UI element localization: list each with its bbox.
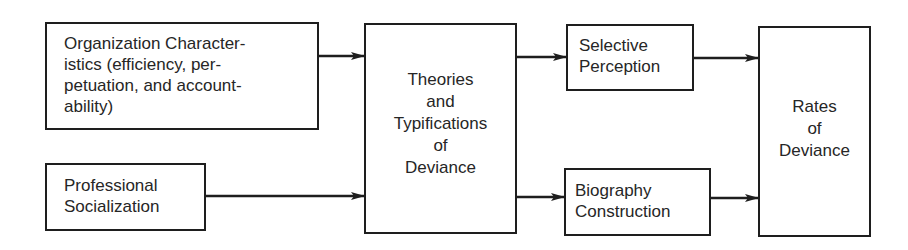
node-text-line: Selective [579,35,660,56]
node-text-line: Organization Character- [64,33,245,54]
node-selective-perception: Selective Perception [566,24,694,91]
node-text-line: Deviance [366,157,515,179]
node-text-line: ability) [64,96,245,117]
node-text-line: petuation, and account- [64,75,245,96]
node-text-line: Rates [760,96,869,118]
node-text-line: Professional [64,175,159,196]
node-text-line: istics (efficiency, per- [64,54,245,75]
node-text-line: Construction [575,201,670,222]
node-text-line: Socialization [64,196,159,217]
node-rates-of-deviance: Rates of Deviance [758,26,871,237]
deviance-flow-diagram: Organization Character- istics (efficien… [0,0,908,250]
node-organization-characteristics: Organization Character- istics (efficien… [45,22,319,130]
node-text-line: and [366,91,515,113]
node-text-line: of [760,118,869,140]
node-biography-construction: Biography Construction [564,168,711,236]
node-theories-typifications: Theories and Typifications of Deviance [364,23,517,234]
node-text-line: Theories [366,69,515,91]
node-professional-socialization: Professional Socialization [45,163,206,231]
node-text-line: Deviance [760,140,869,162]
node-text-line: of [366,135,515,157]
node-text-line: Perception [579,56,660,77]
node-text-line: Biography [575,180,670,201]
node-text-line: Typifications [366,113,515,135]
